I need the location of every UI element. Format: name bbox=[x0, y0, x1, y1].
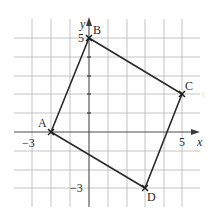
y-axis-label: y bbox=[79, 17, 86, 31]
point-label-b: B bbox=[93, 23, 101, 37]
tick-label-x-5: 5 bbox=[179, 135, 185, 149]
point-label-c: C bbox=[185, 79, 193, 93]
stray-mark: t bbox=[202, 89, 205, 100]
tick-label-x-neg3: −3 bbox=[22, 136, 35, 150]
point-label-d: D bbox=[147, 190, 156, 204]
x-axis-label: x bbox=[196, 135, 203, 149]
axes bbox=[14, 17, 200, 207]
grid bbox=[14, 19, 200, 207]
point-label-a: A bbox=[38, 116, 47, 130]
tick-label-y-neg3: −3 bbox=[70, 181, 83, 195]
coordinate-plane-figure: A B C D x y −3 5 5 −3 t bbox=[0, 0, 212, 216]
tick-label-y-5: 5 bbox=[78, 31, 84, 45]
y-axis-arrow-icon bbox=[86, 17, 92, 26]
